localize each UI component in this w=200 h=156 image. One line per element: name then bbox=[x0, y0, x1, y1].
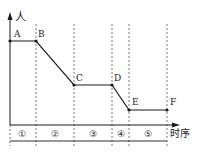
point-c bbox=[72, 83, 75, 86]
process-line bbox=[10, 41, 167, 110]
y-axis-label: 人 bbox=[15, 11, 26, 24]
stage-label-2: ② bbox=[51, 129, 59, 139]
x-axis-label: 时序 bbox=[170, 127, 190, 139]
point-b bbox=[34, 39, 37, 42]
y-axis-arrow-icon bbox=[8, 12, 13, 20]
point-label-b: B bbox=[38, 29, 45, 39]
stage-label-4: ④ bbox=[117, 129, 125, 139]
point-a bbox=[8, 39, 11, 42]
point-label-d: D bbox=[114, 73, 121, 83]
stage-line-diagram: 人 时序 A B C D E F ① ② ③ ④ ⑤ bbox=[0, 0, 200, 156]
stage-label-3: ③ bbox=[89, 129, 97, 139]
point-e bbox=[127, 108, 130, 111]
stage-label-5: ⑤ bbox=[144, 129, 152, 139]
stage-label-1: ① bbox=[18, 129, 26, 139]
points bbox=[8, 39, 168, 111]
point-label-c: C bbox=[76, 73, 83, 83]
point-label-e: E bbox=[132, 97, 139, 107]
x-axis-arrow-icon bbox=[172, 123, 180, 128]
point-label-a: A bbox=[13, 29, 21, 39]
point-f bbox=[165, 108, 168, 111]
point-d bbox=[110, 83, 113, 86]
point-label-f: F bbox=[170, 97, 176, 107]
